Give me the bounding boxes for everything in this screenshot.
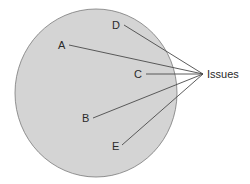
point-label-b: B [82, 112, 89, 124]
point-label-d: D [112, 19, 120, 31]
point-label-c: C [134, 68, 142, 80]
issues-diagram: ABCDE Issues [0, 0, 250, 184]
issues-label: Issues [207, 68, 239, 80]
point-label-e: E [112, 140, 119, 152]
point-label-a: A [58, 39, 66, 51]
scope-circle [15, 9, 177, 177]
